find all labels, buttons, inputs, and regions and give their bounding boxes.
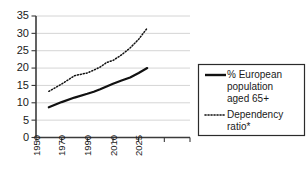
x-tick-label-1990: 1990: [82, 135, 93, 156]
y-tick-label-10: 10: [17, 96, 29, 108]
x-tick-label-2025: 2025: [133, 135, 144, 156]
x-tick-label-1970: 1970: [56, 135, 67, 156]
x-tick-label-1950: 1950: [31, 135, 42, 156]
y-tick-label-30: 30: [17, 27, 29, 39]
chart-figure: 05101520253035 19501970199020102025 % Eu…: [0, 0, 308, 182]
legend-label-series1-line2: population: [227, 81, 273, 92]
y-tick-label-5: 5: [23, 114, 29, 126]
x-tick-label-2010: 2010: [108, 135, 119, 156]
y-tick-label-25: 25: [17, 44, 29, 56]
y-tick-label-0: 0: [23, 131, 29, 143]
legend-label-series1-line3: aged 65+: [227, 93, 269, 104]
line-chart: 05101520253035 19501970199020102025 % Eu…: [0, 0, 308, 182]
y-tick-label-20: 20: [17, 61, 29, 73]
legend-label-series2-line1: Dependency: [227, 109, 283, 120]
legend-label-series1-line1: % European: [227, 69, 282, 80]
y-tick-label-35: 35: [17, 9, 29, 21]
legend: % European population aged 65+ Dependenc…: [199, 65, 305, 136]
legend-label-series2-line2: ratio*: [227, 121, 250, 132]
y-tick-label-15: 15: [17, 79, 29, 91]
